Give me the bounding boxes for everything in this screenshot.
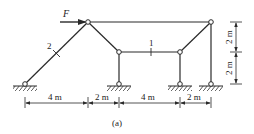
pin-support-3 (178, 82, 183, 87)
member-1-label: 1 (149, 38, 154, 48)
force-label: F (62, 8, 70, 19)
dim-label-h-1: 4 m (48, 92, 62, 102)
dim-label-h-2: 2 m (95, 92, 109, 102)
dim-label-v-2: 2 m (224, 61, 234, 75)
frame-diagram: F 1 2 4 m 2 m 4 m 2 m 2 m 2 m (a) (0, 0, 254, 134)
hinge-mid-right (178, 50, 183, 55)
pin-support-4 (209, 82, 214, 87)
dim-label-v-1: 2 m (224, 30, 234, 44)
figure-caption: (a) (112, 118, 122, 128)
pin-support-2 (117, 82, 122, 87)
member-2-label: 2 (47, 41, 52, 51)
dim-label-h-4: 2 m (187, 92, 201, 102)
inner-diagonal-left (88, 22, 119, 52)
hinge-top-left (86, 20, 91, 25)
pin-support-1 (23, 82, 28, 87)
dim-label-h-3: 4 m (141, 92, 155, 102)
hinge-mid-left (117, 50, 122, 55)
inner-diagonal-right (180, 22, 211, 52)
hinge-top-right (209, 20, 214, 25)
